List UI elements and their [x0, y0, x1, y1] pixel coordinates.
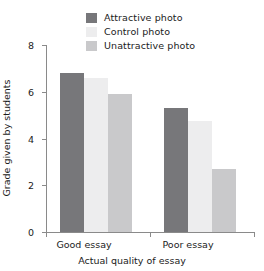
legend-swatch-icon	[86, 13, 97, 23]
bar-attractive-photo	[164, 108, 188, 232]
bar-control-photo	[84, 78, 108, 232]
bar-attractive-photo	[60, 73, 84, 232]
bar-chart: Attractive photo Control photo Unattract…	[0, 0, 264, 271]
x-tick-end	[254, 232, 255, 237]
x-tick-mid	[150, 232, 151, 237]
y-tick-label: 6	[28, 86, 34, 97]
legend-item-attractive-photo: Attractive photo	[86, 12, 195, 23]
legend-label: Attractive photo	[104, 13, 183, 23]
y-tick-label: 8	[28, 40, 34, 51]
y-tick-6: 6	[42, 92, 47, 93]
legend-item-control-photo: Control photo	[86, 26, 195, 37]
x-axis-title: Actual quality of essay	[78, 255, 186, 266]
y-tick-2: 2	[42, 185, 47, 186]
bar-unattractive-photo	[108, 94, 132, 232]
legend-label: Control photo	[104, 27, 170, 37]
x-tick-start	[46, 232, 47, 237]
bar-control-photo	[188, 121, 212, 232]
x-tick-label-poor-essay: Poor essay	[162, 239, 213, 250]
y-tick-label: 4	[28, 133, 34, 144]
y-tick-label: 0	[28, 227, 34, 238]
y-tick-4: 4	[42, 139, 47, 140]
bar-group-poor-essay	[164, 45, 236, 232]
bar-group-good-essay	[60, 45, 132, 232]
y-tick-label: 2	[28, 180, 34, 191]
plot-area: 0 2 4 6 8	[47, 45, 255, 232]
legend-swatch-icon	[86, 27, 97, 37]
y-tick-8: 8	[42, 45, 47, 46]
bar-unattractive-photo	[212, 169, 236, 232]
x-tick-label-good-essay: Good essay	[56, 239, 111, 250]
y-axis-title: Grade given by students	[1, 79, 12, 196]
